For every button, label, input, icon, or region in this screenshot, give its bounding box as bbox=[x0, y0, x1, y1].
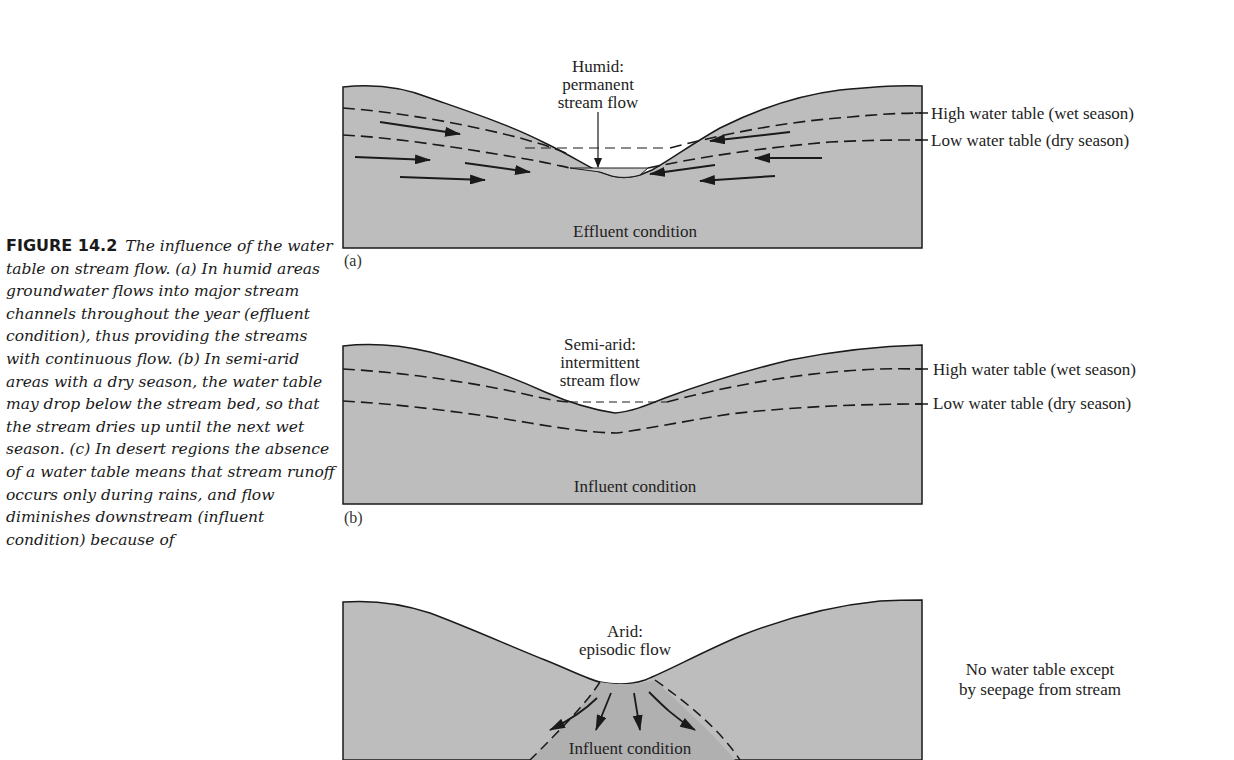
panel-b-letter: (b) bbox=[344, 509, 363, 527]
panel-b-title-line: Semi-arid: bbox=[540, 336, 660, 354]
panel-a-title-line: stream flow bbox=[548, 94, 648, 112]
panel-c-title-line: episodic flow bbox=[555, 641, 695, 659]
panel-c-title-line: Arid: bbox=[555, 623, 695, 641]
panel-b-title: Semi-arid: intermittent stream flow bbox=[540, 336, 660, 390]
panel-c-side-label: No water table except by seepage from st… bbox=[940, 660, 1140, 700]
panel-c-side-label-line: No water table except bbox=[940, 660, 1140, 680]
panel-b-high-water-label: High water table (wet season) bbox=[933, 360, 1136, 380]
panel-b-condition: Influent condition bbox=[520, 478, 750, 496]
panel-b-title-line: intermittent bbox=[540, 354, 660, 372]
panel-a-condition: Effluent condition bbox=[520, 223, 750, 241]
panel-a-letter: (a) bbox=[344, 252, 362, 270]
panel-c-title: Arid: episodic flow bbox=[555, 623, 695, 659]
panel-a-low-water-label: Low water table (dry season) bbox=[931, 131, 1129, 151]
panel-a-title-line: permanent bbox=[548, 76, 648, 94]
panel-c-condition: Influent condition bbox=[515, 740, 745, 758]
panel-c-side-label-line: by seepage from stream bbox=[940, 680, 1140, 700]
panel-a-high-water-label: High water table (wet season) bbox=[931, 104, 1134, 124]
panel-b-title-line: stream flow bbox=[540, 372, 660, 390]
panel-a-title-line: Humid: bbox=[548, 58, 648, 76]
panel-a-title: Humid: permanent stream flow bbox=[548, 58, 648, 112]
panel-b-low-water-label: Low water table (dry season) bbox=[933, 394, 1131, 414]
